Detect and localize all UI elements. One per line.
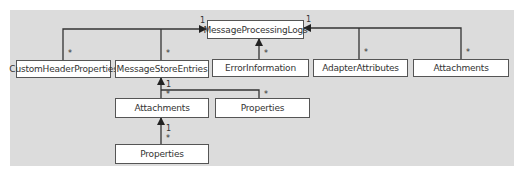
mult-custom-header: * (68, 50, 72, 58)
mult-adapter-attributes: * (364, 49, 368, 57)
node-message-processing-logs: MessageProcessingLogs (207, 20, 304, 39)
mult-root-left: 1 (200, 17, 205, 25)
mult-store-attachments: * (166, 91, 170, 99)
mult-store-parent: 1 (166, 81, 171, 89)
mult-attachment-parent: 1 (166, 125, 171, 133)
mult-error-info: * (264, 50, 268, 58)
node-attachments: Attachments (413, 59, 509, 77)
node-attachment-properties: Properties (115, 144, 209, 164)
node-custom-header-properties: CustomHeaderProperties (16, 60, 111, 78)
node-message-store-entries: MessageStoreEntries (115, 60, 209, 78)
mult-attachments: * (466, 49, 470, 57)
node-error-information: ErrorInformation (212, 59, 309, 77)
node-store-properties: Properties (215, 98, 310, 118)
mult-root-right: 1 (306, 16, 311, 24)
mult-store-properties: * (264, 91, 268, 99)
mult-store-entries: * (166, 50, 170, 58)
node-store-attachments: Attachments (115, 98, 209, 118)
node-adapter-attributes: AdapterAttributes (313, 59, 408, 77)
mult-attachment-properties: * (166, 135, 170, 143)
